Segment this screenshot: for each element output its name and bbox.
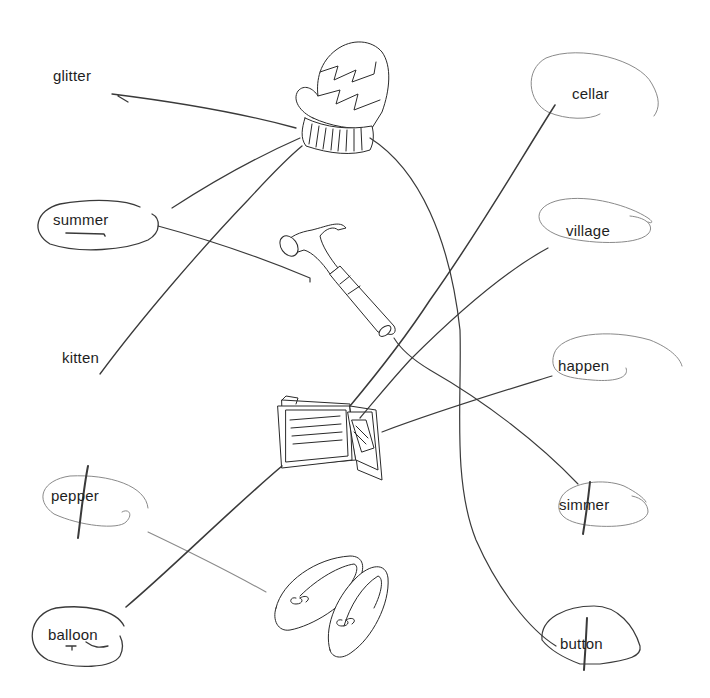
word-balloon: balloon [48, 627, 98, 642]
word-button: button [560, 636, 603, 651]
slippers-picture [275, 556, 388, 657]
line-balloon-wallet [126, 466, 282, 607]
word-cellar: cellar [572, 86, 609, 101]
summer-underline [66, 233, 105, 236]
line-happen-wallet [382, 376, 552, 432]
line-button-mitten [370, 138, 556, 646]
mitten-picture [296, 42, 389, 154]
word-village: village [566, 223, 610, 238]
drawing-layer [0, 0, 710, 698]
line-simmer-hammer [394, 338, 578, 484]
balloon-underline [66, 642, 108, 650]
word-happen: happen [558, 358, 609, 373]
word-simmer: simmer [559, 497, 609, 512]
hammer-picture [276, 224, 395, 339]
line-cellar-wallet [350, 105, 555, 406]
word-pepper: pepper [51, 488, 99, 503]
wallet-picture [278, 396, 382, 480]
line-summer-mitten [172, 138, 300, 208]
word-summer: summer [53, 212, 108, 227]
line-pepper-slippers [148, 532, 266, 592]
word-glitter: glitter [53, 68, 91, 83]
line-glitter-mitten [112, 94, 296, 128]
word-kitten: kitten [62, 350, 99, 365]
matching-worksheet: glitter summer kitten pepper balloon cel… [0, 0, 710, 698]
line-kitten-mitten [100, 146, 302, 374]
